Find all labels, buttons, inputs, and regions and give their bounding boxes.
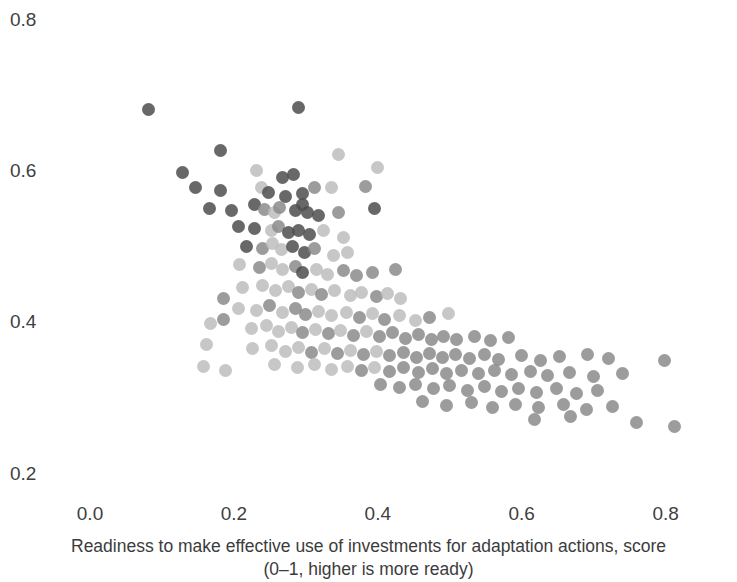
- scatter-point[interactable]: [142, 103, 155, 116]
- scatter-point[interactable]: [563, 366, 576, 379]
- scatter-point[interactable]: [378, 313, 391, 326]
- scatter-point[interactable]: [410, 351, 423, 364]
- scatter-point[interactable]: [426, 362, 439, 375]
- scatter-point[interactable]: [296, 266, 309, 279]
- scatter-point[interactable]: [443, 379, 456, 392]
- scatter-point[interactable]: [399, 332, 412, 345]
- scatter-point[interactable]: [373, 330, 386, 343]
- scatter-point[interactable]: [465, 396, 478, 409]
- scatter-point[interactable]: [217, 292, 230, 305]
- scatter-point[interactable]: [463, 352, 476, 365]
- scatter-point[interactable]: [236, 281, 249, 294]
- scatter-point[interactable]: [225, 204, 238, 217]
- scatter-point[interactable]: [305, 346, 318, 359]
- scatter-point[interactable]: [416, 395, 429, 408]
- scatter-point[interactable]: [383, 365, 396, 378]
- scatter-point[interactable]: [450, 333, 463, 346]
- scatter-point[interactable]: [359, 180, 372, 193]
- scatter-point[interactable]: [197, 360, 210, 373]
- scatter-point[interactable]: [327, 249, 340, 262]
- scatter-point[interactable]: [203, 202, 216, 215]
- scatter-point[interactable]: [287, 168, 300, 181]
- scatter-point[interactable]: [423, 347, 436, 360]
- scatter-point[interactable]: [341, 360, 354, 373]
- scatter-point[interactable]: [486, 401, 499, 414]
- scatter-point[interactable]: [591, 384, 604, 397]
- scatter-point[interactable]: [564, 410, 577, 423]
- scatter-point[interactable]: [340, 306, 353, 319]
- scatter-point[interactable]: [394, 292, 407, 305]
- scatter-point[interactable]: [355, 286, 368, 299]
- scatter-point[interactable]: [668, 420, 681, 433]
- scatter-point[interactable]: [602, 352, 615, 365]
- scatter-point[interactable]: [292, 286, 305, 299]
- scatter-point[interactable]: [509, 398, 522, 411]
- scatter-point[interactable]: [262, 186, 275, 199]
- scatter-point[interactable]: [233, 258, 246, 271]
- scatter-point[interactable]: [386, 326, 399, 339]
- scatter-point[interactable]: [248, 222, 261, 235]
- scatter-point[interactable]: [250, 304, 263, 317]
- scatter-point[interactable]: [325, 309, 338, 322]
- scatter-point[interactable]: [440, 367, 453, 380]
- scatter-point[interactable]: [318, 342, 331, 355]
- scatter-point[interactable]: [328, 284, 341, 297]
- scatter-point[interactable]: [515, 349, 528, 362]
- scatter-point[interactable]: [219, 364, 232, 377]
- scatter-point[interactable]: [530, 386, 543, 399]
- scatter-point[interactable]: [371, 161, 384, 174]
- scatter-point[interactable]: [355, 364, 368, 377]
- scatter-point[interactable]: [214, 184, 227, 197]
- scatter-point[interactable]: [524, 365, 537, 378]
- scatter-point[interactable]: [176, 166, 189, 179]
- scatter-point[interactable]: [353, 311, 366, 324]
- scatter-point[interactable]: [268, 358, 281, 371]
- scatter-point[interactable]: [276, 263, 289, 276]
- scatter-point[interactable]: [312, 305, 325, 318]
- scatter-point[interactable]: [442, 307, 455, 320]
- scatter-point[interactable]: [368, 202, 381, 215]
- scatter-point[interactable]: [308, 242, 321, 255]
- scatter-point[interactable]: [580, 403, 593, 416]
- scatter-point[interactable]: [344, 344, 357, 357]
- scatter-point[interactable]: [334, 324, 347, 337]
- scatter-point[interactable]: [366, 266, 379, 279]
- scatter-point[interactable]: [214, 144, 227, 157]
- scatter-point[interactable]: [292, 341, 305, 354]
- scatter-point[interactable]: [484, 334, 497, 347]
- scatter-point[interactable]: [505, 368, 518, 381]
- scatter-point[interactable]: [381, 287, 394, 300]
- scatter-point[interactable]: [488, 364, 501, 377]
- scatter-point[interactable]: [658, 354, 671, 367]
- scatter-plot-area[interactable]: [0, 0, 737, 500]
- scatter-point[interactable]: [245, 322, 258, 335]
- scatter-point[interactable]: [273, 201, 286, 214]
- scatter-point[interactable]: [240, 240, 253, 253]
- scatter-point[interactable]: [409, 378, 422, 391]
- scatter-point[interactable]: [440, 399, 453, 412]
- scatter-point[interactable]: [495, 385, 508, 398]
- scatter-point[interactable]: [478, 380, 491, 393]
- scatter-point[interactable]: [461, 384, 474, 397]
- scatter-point[interactable]: [553, 350, 566, 363]
- scatter-point[interactable]: [389, 263, 402, 276]
- scatter-point[interactable]: [269, 284, 282, 297]
- scatter-point[interactable]: [350, 269, 363, 282]
- scatter-point[interactable]: [291, 361, 304, 374]
- scatter-point[interactable]: [370, 345, 383, 358]
- scatter-point[interactable]: [292, 101, 305, 114]
- scatter-point[interactable]: [468, 330, 481, 343]
- scatter-point[interactable]: [423, 311, 436, 324]
- scatter-point[interactable]: [337, 231, 350, 244]
- scatter-point[interactable]: [534, 354, 547, 367]
- scatter-point[interactable]: [472, 367, 485, 380]
- scatter-point[interactable]: [256, 279, 269, 292]
- scatter-point[interactable]: [263, 299, 276, 312]
- scatter-point[interactable]: [189, 181, 202, 194]
- scatter-point[interactable]: [308, 181, 321, 194]
- scatter-point[interactable]: [630, 416, 643, 429]
- scatter-point[interactable]: [581, 348, 594, 361]
- scatter-point[interactable]: [393, 309, 406, 322]
- scatter-point[interactable]: [397, 346, 410, 359]
- scatter-point[interactable]: [232, 220, 245, 233]
